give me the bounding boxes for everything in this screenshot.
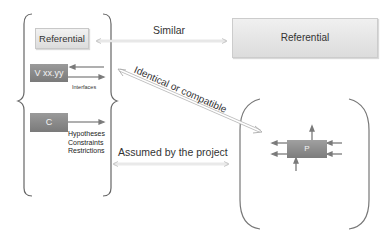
similar-label: Similar — [153, 24, 185, 36]
similar-arrow — [96, 39, 227, 44]
constraints-list: Hypotheses Constraints Restrictions — [68, 130, 105, 156]
hypotheses-label: Hypotheses — [68, 130, 105, 139]
right-bracket — [240, 99, 369, 229]
interface-arrows — [68, 65, 104, 79]
restrictions-label: Restrictions — [68, 147, 105, 156]
constraint-arrow — [68, 120, 104, 124]
version-box: V xx.yy — [30, 64, 68, 82]
identical-arrow — [118, 69, 262, 133]
constraints-box: C — [30, 113, 68, 132]
project-box: P — [287, 140, 327, 158]
left-referential-box: Referential — [35, 28, 89, 49]
constraints-label: Constraints — [68, 139, 105, 148]
interfaces-label: Interfaces — [72, 84, 96, 90]
assumed-arrow — [113, 162, 229, 167]
right-referential-box: Referential — [232, 18, 378, 58]
assumed-label: Assumed by the project — [118, 146, 228, 158]
